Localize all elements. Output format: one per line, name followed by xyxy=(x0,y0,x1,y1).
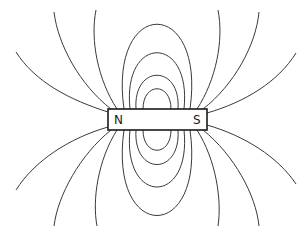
field-loop-bottom-1 xyxy=(143,130,171,150)
bar-magnet: N S xyxy=(108,109,207,130)
field-loop-top-1 xyxy=(143,89,171,109)
field-loop-top-4 xyxy=(122,24,192,109)
field-line-left-lower xyxy=(16,127,108,190)
field-line-right-upper xyxy=(207,53,296,113)
field-line-left-upper xyxy=(16,52,108,112)
field-line-bottom-right-inner xyxy=(197,130,219,226)
field-line-right-lower xyxy=(207,125,296,184)
field-lines-top xyxy=(16,10,296,113)
field-loop-bottom-3 xyxy=(129,130,184,187)
field-lines-bottom xyxy=(16,125,296,226)
field-loop-top-2 xyxy=(136,75,178,109)
field-loop-bottom-2 xyxy=(136,130,178,165)
magnetic-field-diagram: N S xyxy=(0,0,308,238)
field-line-top-left-inner xyxy=(94,10,117,109)
field-line-bottom-left-outer xyxy=(54,130,111,226)
south-pole-label: S xyxy=(193,113,201,127)
north-pole-label: N xyxy=(114,113,123,127)
field-line-bottom-left-inner xyxy=(95,130,117,226)
field-line-top-left-outer xyxy=(54,12,111,109)
field-line-top-right-inner xyxy=(197,10,220,109)
field-loop-top-3 xyxy=(129,53,184,109)
field-line-bottom-right-outer xyxy=(203,130,259,226)
field-loop-bottom-4 xyxy=(122,130,192,216)
